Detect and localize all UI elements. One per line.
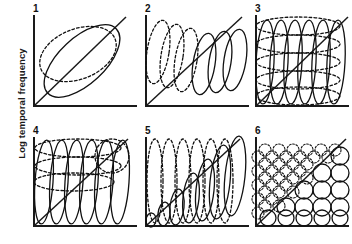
- panel-4: 4: [30, 126, 142, 234]
- panel-5-solid-ellipse: [221, 135, 249, 217]
- panel-3: 3: [252, 4, 352, 114]
- panel-2-plot: [142, 4, 254, 114]
- y-axis-label: Log temporal frequency: [16, 39, 27, 169]
- panel-1-plot: [30, 4, 142, 114]
- panel-2-solid-ellipse: [204, 30, 235, 95]
- panel-4-solid-ellipse: [92, 139, 116, 224]
- panel-5-solid-ellipse: [206, 144, 234, 220]
- panel-4-solid-ellipse: [47, 139, 71, 224]
- panel-5: 5: [142, 126, 254, 234]
- panel-5-plot: [142, 126, 254, 234]
- panel-3-solid-ellipse: [310, 20, 332, 105]
- panel-3-plot: [252, 4, 352, 114]
- panel-4-solid-ellipse: [108, 139, 132, 224]
- panel-1-number: 1: [33, 4, 39, 14]
- panel-3-solid-ellipse: [254, 20, 276, 105]
- panel-6-plot: [252, 126, 352, 234]
- panel-1: 1: [30, 4, 142, 114]
- panel-4-dashed-ellipse: [35, 139, 121, 157]
- panel-4-solid-ellipse: [32, 139, 56, 224]
- panel-2-number: 2: [145, 4, 151, 14]
- panel-6: 6: [252, 126, 352, 234]
- panel-1-dashed-ellipse: [32, 16, 125, 92]
- panel-2-dashed-ellipse: [156, 23, 188, 90]
- panel-4-plot: [30, 126, 142, 234]
- panel-2-dashed-ellipse: [170, 27, 202, 94]
- panel-2: 2: [142, 4, 254, 114]
- panel-3-solid-ellipse: [268, 20, 290, 105]
- panel-1-axes: [34, 16, 136, 106]
- panel-6-number: 6: [255, 126, 261, 136]
- panel-4-number: 4: [33, 126, 39, 136]
- panel-3-number: 3: [255, 4, 261, 14]
- figure-panel-grid: Log temporal frequency 1 2 3: [0, 0, 352, 244]
- panel-6-dashed-circle-grid: [252, 144, 341, 219]
- panel-5-number: 5: [145, 126, 151, 136]
- panel-3-solid-ellipse: [296, 20, 318, 105]
- panel-2-solid-ellipse: [219, 28, 250, 93]
